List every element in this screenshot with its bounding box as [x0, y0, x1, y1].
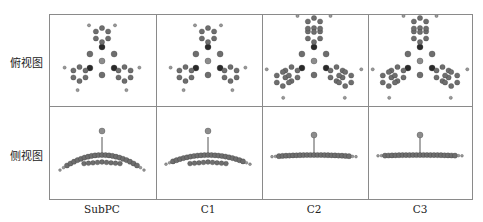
- molecule-c2-side-image: [262, 107, 367, 197]
- structure-grid: [49, 14, 473, 200]
- column-label-c3: C3: [367, 203, 473, 215]
- row-label-side-view: 侧视图: [10, 147, 43, 163]
- molecule-c1-side-image: [156, 107, 261, 197]
- molecule-subpc-side-image: [50, 107, 155, 197]
- cell-c3-side-view: [368, 107, 473, 197]
- cell-c1-side-view: [156, 107, 261, 197]
- cell-subpc-side-view: [50, 107, 155, 197]
- cell-subpc-top-view: [50, 15, 155, 105]
- molecule-c1-top-image: [156, 15, 261, 105]
- molecule-subpc-top-image: [50, 15, 155, 105]
- molecule-c3-top-image: [368, 15, 473, 105]
- row-label-top-view: 俯视图: [10, 54, 43, 70]
- molecular-structure-figure: 俯视图 侧视图 SubPC C1 C2 C3: [0, 0, 483, 222]
- cell-c3-top-view: [368, 15, 473, 105]
- cell-c1-top-view: [156, 15, 261, 105]
- column-label-subpc: SubPC: [49, 203, 155, 215]
- molecule-c2-top-image: [262, 15, 367, 105]
- molecule-c3-side-image: [368, 107, 473, 197]
- column-label-c1: C1: [155, 203, 261, 215]
- cell-c2-top-view: [262, 15, 367, 105]
- column-label-c2: C2: [261, 203, 367, 215]
- cell-c2-side-view: [262, 107, 367, 197]
